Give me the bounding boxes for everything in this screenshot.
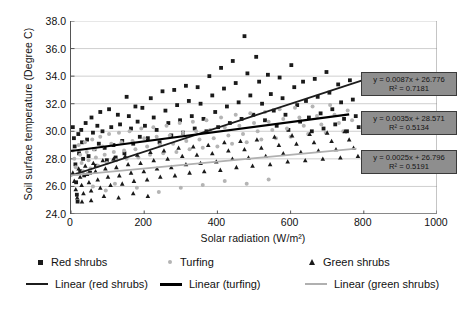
y-tick-label: 24.0 [32, 208, 66, 220]
triangle-marker-icon [309, 259, 315, 265]
series-points [71, 129, 360, 204]
equation-label-green-shrubs: y = 0.0025x + 26.796 R² = 0.5191 [361, 150, 457, 174]
r-squared-text: R² = 0.7181 [365, 84, 453, 93]
y-axis-tick-labels: 24.026.028.030.032.034.036.038.0 [26, 0, 66, 214]
line-marker-icon [160, 283, 182, 286]
y-tick-label: 26.0 [32, 180, 66, 192]
r-squared-text: R² = 0.5191 [365, 162, 453, 171]
line-marker-icon [26, 283, 48, 285]
chart-legend: Red shrubs Turfing Green shrubs Linear (… [0, 252, 466, 304]
dot-marker-icon [168, 260, 172, 264]
series-points [71, 103, 354, 194]
legend-item-linear-turfing: Linear (turfing) [160, 278, 305, 290]
legend-item-red-shrubs: Red shrubs [0, 256, 160, 268]
legend-row-trendlines: Linear (red shrubs) Linear (turfing) Lin… [0, 278, 466, 290]
equation-label-red-shrubs: y = 0.0087x + 26.776 R² = 0.7181 [361, 72, 457, 96]
y-tick-label: 34.0 [32, 70, 66, 82]
legend-label: Turfing [180, 256, 214, 268]
y-tick-label: 32.0 [32, 98, 66, 110]
equation-label-turfing: y = 0.0035x + 28.571 R² = 0.5134 [361, 111, 457, 135]
equation-text: y = 0.0025x + 26.796 [365, 153, 453, 162]
x-tick-label: 800 [354, 216, 372, 228]
y-tick-label: 38.0 [32, 15, 66, 27]
legend-item-linear-red-shrubs: Linear (red shrubs) [0, 278, 160, 290]
y-tick-label: 28.0 [32, 153, 66, 165]
y-tick-label: 30.0 [32, 125, 66, 137]
legend-item-turfing: Turfing [160, 256, 305, 268]
x-tick-label: 1000 [424, 216, 447, 228]
r-squared-text: R² = 0.5134 [365, 123, 453, 132]
legend-label: Linear (red shrubs) [55, 278, 148, 290]
x-tick-label: 600 [281, 216, 299, 228]
legend-item-green-shrubs: Green shrubs [305, 256, 466, 268]
y-tick-label: 36.0 [32, 43, 66, 55]
legend-row-markers: Red shrubs Turfing Green shrubs [0, 256, 466, 268]
legend-label: Linear (green shrubs) [334, 278, 439, 290]
equation-text: y = 0.0035x + 28.571 [365, 114, 453, 123]
legend-label: Green shrubs [323, 256, 390, 268]
legend-label: Linear (turfing) [189, 278, 261, 290]
chart-container: Soil surface temperature (Degree C) 24.0… [0, 0, 466, 310]
x-tick-label: 200 [134, 216, 152, 228]
square-marker-icon [38, 260, 43, 265]
x-tick-label: 0 [67, 216, 73, 228]
x-axis-title: Solar radiation (W/m²) [70, 232, 436, 244]
legend-item-linear-green-shrubs: Linear (green shrubs) [305, 278, 466, 290]
line-marker-icon [305, 283, 327, 285]
equation-text: y = 0.0087x + 26.776 [365, 75, 453, 84]
x-tick-label: 400 [208, 216, 226, 228]
legend-label: Red shrubs [51, 256, 107, 268]
